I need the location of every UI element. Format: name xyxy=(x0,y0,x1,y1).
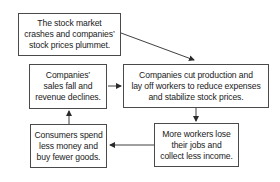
node-text-line: and stabilize stock prices. xyxy=(131,92,260,103)
node-text-line: stock prices plummet. xyxy=(24,40,114,51)
node-text-line: buy fewer goods. xyxy=(34,152,102,163)
node-text-line: sales fall and xyxy=(35,81,101,92)
node-text-line: lay off workers to reduce expenses xyxy=(131,81,260,92)
node-text-line: their jobs and xyxy=(160,140,233,151)
node-text-line: More workers lose xyxy=(160,129,233,140)
node-companies-cut-production: Companies cut production and lay off wor… xyxy=(123,64,269,108)
node-text-line: The stock market xyxy=(24,18,114,29)
node-workers-lose-jobs: More workers lose their jobs and collect… xyxy=(154,123,239,167)
node-stock-market-crash: The stock market crashes and companies’ … xyxy=(18,13,121,56)
node-text-line: Companies cut production and xyxy=(131,70,260,81)
node-text-line: less money and xyxy=(34,141,102,152)
node-text-line: crashes and companies’ xyxy=(24,29,114,40)
node-text-line: revenue declines. xyxy=(35,92,101,103)
node-consumers-spend-less: Consumers spend less money and buy fewer… xyxy=(30,124,107,168)
node-text-line: collect less income. xyxy=(160,151,233,162)
node-text-line: Consumers spend xyxy=(34,130,102,141)
arrow-crash-to-cut xyxy=(121,33,194,60)
node-text-line: Companies’ xyxy=(35,70,101,81)
node-sales-fall: Companies’ sales fall and revenue declin… xyxy=(29,64,107,109)
